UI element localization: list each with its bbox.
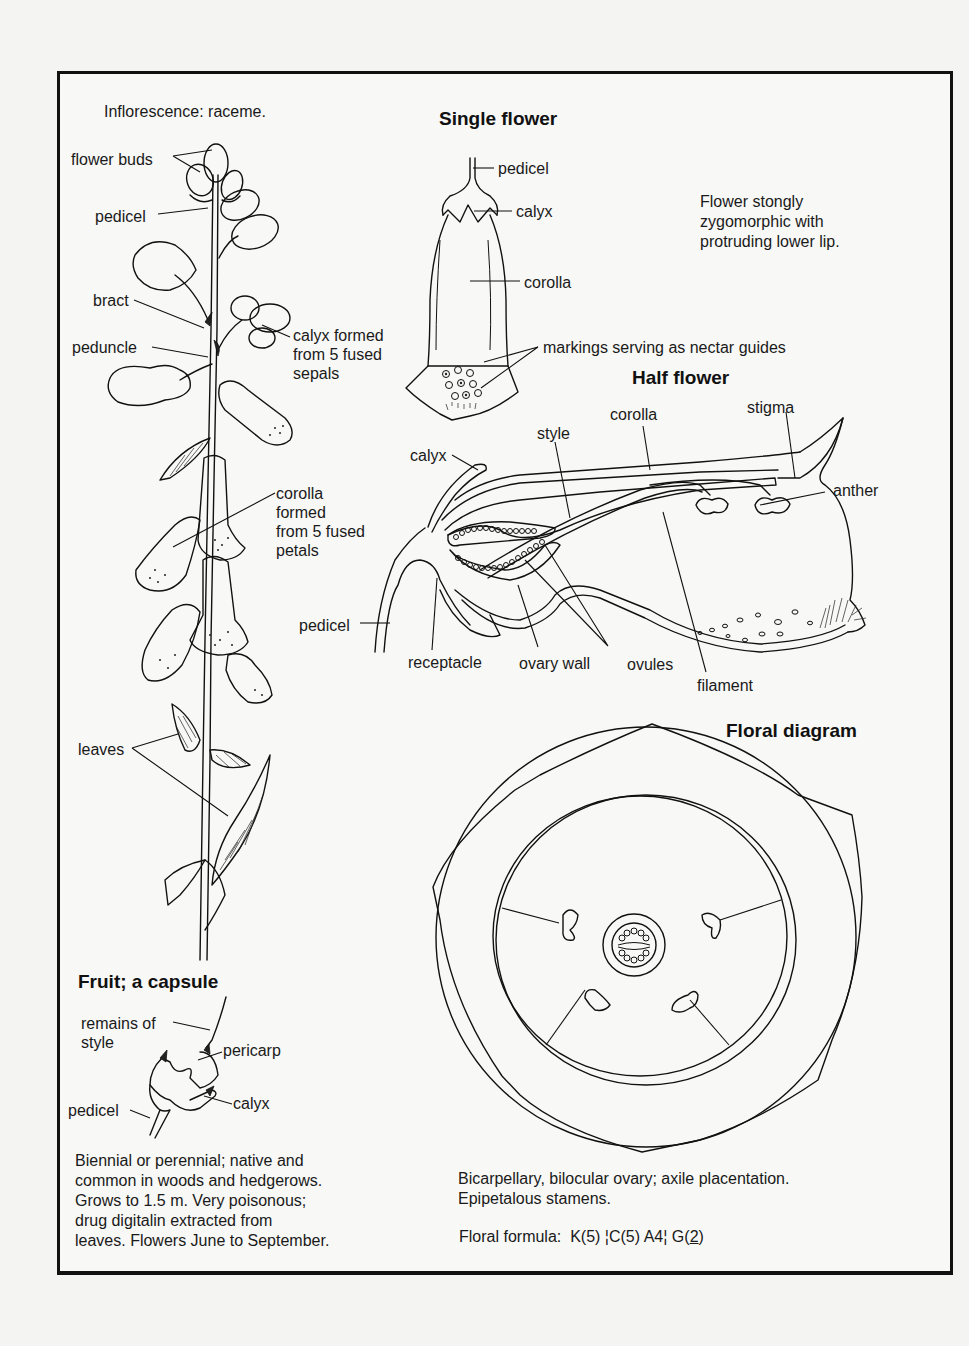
label-pedicel-fruit: pedicel [68,1101,119,1120]
anther-upper-left [563,910,578,940]
label-pericarp: pericarp [223,1041,281,1060]
label-pedicel-plant: pedicel [95,207,146,226]
corolla-whorl [436,727,856,1147]
label-calyx-plant: calyx formed from 5 fused sepals [293,326,384,383]
single-flower-drawing [406,158,518,420]
label-corolla-half: corolla [610,405,657,424]
label-style: style [537,424,570,443]
anther-lower-left [585,990,610,1011]
label-remains-of-style: remains of style [81,1014,156,1052]
label-anther: anther [833,481,878,500]
formula-corolla-androecium: ¦C(5) A4¦ [605,1228,668,1245]
label-calyx-single: calyx [516,202,552,221]
half-flower-title: Half flower [632,367,729,389]
single-flower-title: Single flower [439,108,557,130]
label-nectar-guides: markings serving as nectar guides [543,338,786,357]
anther-upper-right [702,913,721,938]
fruit-capsule-drawing [150,997,226,1138]
label-bract: bract [93,291,129,310]
label-pedicel-single: pedicel [498,159,549,178]
ovules-drawing [454,526,545,571]
label-corolla-single: corolla [524,273,571,292]
anthers-drawing [696,498,790,514]
label-ovary-wall: ovary wall [519,654,590,673]
leaves-drawing [165,704,270,930]
label-flower-buds: flower buds [71,150,153,169]
label-pedicel-half: pedicel [299,616,350,635]
half-flower-drawing [375,418,866,652]
label-corolla-plant: corolla formed from 5 fused petals [276,484,365,560]
label-calyx-half: calyx [410,446,446,465]
label-peduncle: peduncle [72,338,137,357]
ovary-ovules [618,928,650,963]
floral-formula: Floral formula: K(5) ¦C(5) A4¦ G(2) [459,1227,704,1246]
inflorescence-note: Inflorescence: raceme. [104,102,266,121]
formula-carpel-count: 2 [690,1228,699,1245]
anther-lower-right [672,992,698,1013]
floral-diagram-drawing [433,724,862,1152]
floral-diagram-description: Bicarpellary, bilocular ovary; axile pla… [458,1169,789,1209]
androecium-whorl [496,795,796,1085]
plant-description: Biennial or perennial; native and common… [75,1151,329,1251]
fruit-title: Fruit; a capsule [78,971,218,993]
label-calyx-fruit: calyx [233,1094,269,1113]
nectar-guide-markings [443,367,482,411]
floral-diagram-title: Floral diagram [726,720,857,742]
label-ovules: ovules [627,655,673,674]
label-leaves: leaves [78,740,124,759]
zygomorphic-note: Flower stongly zygomorphic with protrudi… [700,192,840,252]
floral-formula-label: Floral formula: [459,1228,561,1245]
plant-raceme-drawing [108,144,292,960]
formula-gynoecium: G(2) [672,1228,704,1245]
label-receptacle: receptacle [408,653,482,672]
label-stigma: stigma [747,398,794,417]
label-filament: filament [697,676,753,695]
formula-calyx: K(5) [570,1228,600,1245]
